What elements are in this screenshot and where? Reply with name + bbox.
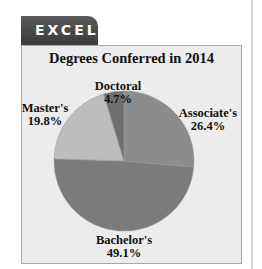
label-master-pct: 19.8% bbox=[20, 115, 70, 128]
label-bachelor: Bachelor's 49.1% bbox=[94, 234, 154, 260]
label-bachelor-pct: 49.1% bbox=[94, 247, 154, 260]
label-doctoral-pct: 4.7% bbox=[88, 93, 148, 106]
label-associate-pct: 26.4% bbox=[176, 120, 240, 133]
label-master: Master's 19.8% bbox=[20, 102, 70, 128]
pie-slice-bachelors bbox=[54, 159, 194, 231]
label-doctoral: Doctoral 4.7% bbox=[88, 80, 148, 106]
label-associate: Associate's 26.4% bbox=[176, 107, 240, 133]
pie-chart bbox=[0, 0, 262, 269]
